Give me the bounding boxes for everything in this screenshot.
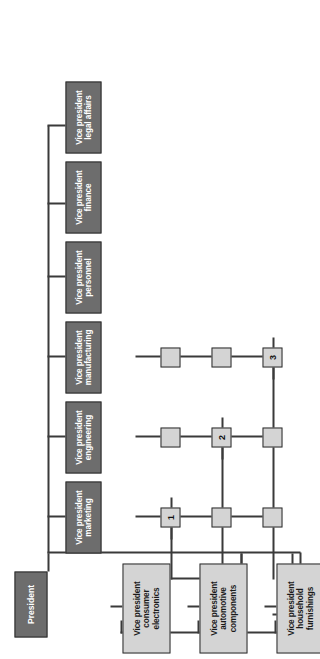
node-vp-consumer-electronics-line3: electronics	[151, 587, 160, 629]
node-vp-finance-line2: finance	[83, 183, 92, 211]
node-vp-manufacturing-line1: Vice president	[74, 330, 83, 384]
node-vp-marketing-line2: marketing	[83, 498, 92, 536]
bottom-tap-automotive-components	[197, 620, 199, 633]
product-drop-household-furnishings	[264, 605, 276, 607]
connector-drop-finance	[47, 202, 65, 204]
connector-president-stub	[47, 553, 49, 571]
node-vp-consumer-electronics-line2: consumer	[141, 589, 150, 627]
node-vp-manufacturing[interactable]: Vice president manufacturing	[65, 321, 101, 393]
node-vp-marketing-line1: Vice president	[74, 490, 83, 544]
node-vp-legal-affairs-line1: Vice president	[74, 90, 83, 144]
bottom-tap-household-furnishings	[274, 620, 276, 633]
matrix-cell-consumer-electronics-manufacturing[interactable]	[160, 347, 180, 367]
node-vp-finance-line1: Vice president	[74, 170, 83, 224]
node-vp-legal-affairs[interactable]: Vice president legal affairs	[65, 81, 101, 153]
node-vp-finance[interactable]: Vice president finance	[65, 161, 101, 233]
spine-manufacturing	[135, 355, 160, 357]
node-vp-marketing[interactable]: Vice president marketing	[65, 481, 101, 553]
node-vp-personnel-line1: Vice president	[74, 250, 83, 304]
node-vp-engineering-line2: engineering	[83, 414, 92, 459]
node-vp-automotive-components-line1: Vice president	[209, 581, 218, 635]
org-chart-canvas: President Vice president marketing Vice …	[0, 0, 318, 659]
matrix-cell-automotive-components-manufacturing[interactable]	[211, 347, 231, 367]
diagram-stage: President Vice president marketing Vice …	[0, 0, 318, 659]
matrix-cell-label: 3	[267, 355, 277, 360]
matrix-cell-label: 1	[165, 515, 175, 520]
node-vp-household-furnishings-line3: furnishings	[305, 586, 314, 629]
matrix-cell-automotive-components-engineering[interactable]: 2	[211, 427, 231, 447]
node-vp-engineering[interactable]: Vice president engineering	[65, 401, 101, 473]
matrix-cell-household-furnishings-manufacturing[interactable]: 3	[262, 347, 282, 367]
node-vp-manufacturing-line2: manufacturing	[83, 329, 92, 385]
node-vp-engineering-line1: Vice president	[74, 410, 83, 464]
node-vp-personnel-line2: personnel	[83, 258, 92, 296]
connector-drop-engineering	[47, 435, 65, 437]
node-vp-consumer-electronics-line1: Vice president	[132, 581, 141, 635]
spine-marketing	[135, 515, 160, 517]
node-vp-automotive-components[interactable]: Vice president automotive components	[199, 563, 247, 653]
matrix-cell-household-furnishings-engineering[interactable]	[262, 427, 282, 447]
node-vp-household-furnishings-line2: household	[295, 588, 304, 629]
node-vp-automotive-components-line2: automotive	[218, 587, 227, 630]
matrix-cell-consumer-electronics-marketing[interactable]: 1	[160, 507, 180, 527]
node-president-label: President	[26, 582, 36, 625]
matrix-cell-household-furnishings-marketing[interactable]	[262, 507, 282, 527]
connector-top-bus	[47, 125, 49, 553]
connector-drop-personnel	[47, 275, 65, 277]
node-vp-automotive-components-line3: components	[228, 584, 237, 632]
bottom-tap-consumer-electronics	[120, 620, 122, 633]
product-drop-consumer-electronics	[110, 605, 122, 607]
node-vp-household-furnishings-line1: Vice president	[286, 581, 295, 635]
product-drop-automotive-components	[187, 605, 199, 607]
connector-drop-legal-affairs	[47, 124, 65, 126]
connector-drop-marketing	[47, 515, 65, 517]
node-vp-consumer-electronics[interactable]: Vice president consumer electronics	[122, 563, 170, 653]
spine-engineering	[135, 435, 160, 437]
node-vp-personnel[interactable]: Vice president personnel	[65, 241, 101, 313]
node-vp-household-furnishings[interactable]: Vice president household furnishings	[276, 563, 318, 653]
matrix-cell-automotive-components-marketing[interactable]	[211, 507, 231, 527]
matrix-cell-label: 2	[216, 435, 226, 440]
node-president[interactable]: President	[14, 571, 47, 637]
node-vp-legal-affairs-line2: legal affairs	[83, 95, 92, 139]
matrix-cell-consumer-electronics-engineering[interactable]	[160, 427, 180, 447]
connector-drop-manufacturing	[47, 355, 65, 357]
